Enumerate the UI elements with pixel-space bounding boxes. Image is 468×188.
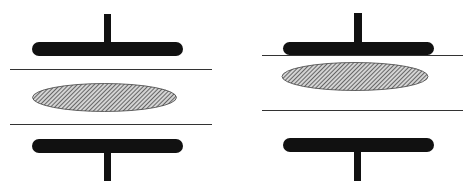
diagram-canvas [0,0,468,188]
bottom-plate [283,138,434,181]
top-plate-stem [104,14,111,46]
top-plate-bar [283,42,434,55]
bottom-plate-stem [354,149,361,181]
bottom-plate-stem [104,150,111,181]
left-panel [10,14,212,181]
bottom-plate [32,139,183,181]
top-plate [32,14,183,56]
hatched-ellipse [33,84,177,112]
top-plate [283,13,434,55]
right-panel [262,13,463,181]
top-plate-stem [354,13,362,45]
top-plate-bar [32,42,183,56]
hatched-ellipse [282,63,428,91]
